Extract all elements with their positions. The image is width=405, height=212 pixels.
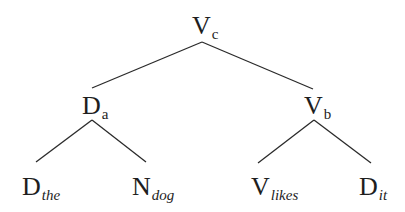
node-leaf-dog-subscript: dog [152,187,175,203]
edge-right-leaf3 [258,120,314,163]
node-leaf-it: Dit [359,174,387,200]
node-leaf-it-subscript: it [379,187,387,203]
edge-root-left [92,42,202,88]
edge-right-leaf4 [314,120,371,163]
node-leaf-likes-category: V [251,172,270,201]
node-leaf-likes-subscript: likes [271,187,299,203]
node-root: Vc [192,13,218,39]
node-left-category: D [82,91,101,120]
node-leaf-dog-category: N [132,172,151,201]
node-right: Vb [304,93,331,119]
node-leaf-the-subscript: the [42,187,60,203]
node-left: Da [82,93,108,119]
node-right-category: V [304,91,323,120]
edge-left-leaf1 [36,120,92,162]
node-leaf-dog: Ndog [132,174,174,200]
node-right-subscript: b [324,106,332,122]
node-left-subscript: a [102,106,109,122]
node-leaf-it-category: D [359,172,378,201]
node-root-category: V [192,11,211,40]
edge-root-right [202,42,313,89]
node-root-subscript: c [212,26,219,42]
edge-left-leaf2 [92,120,146,162]
node-leaf-likes: Vlikes [251,174,298,200]
node-leaf-the-category: D [22,172,41,201]
node-leaf-the: Dthe [22,174,60,200]
